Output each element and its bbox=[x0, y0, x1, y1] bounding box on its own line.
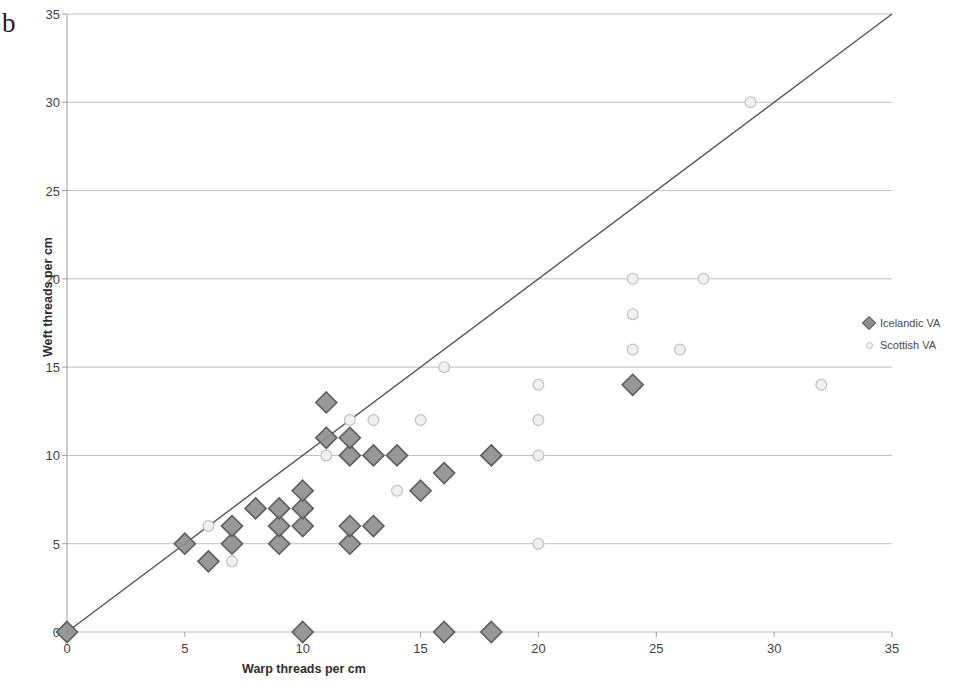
x-tick-label: 30 bbox=[754, 641, 794, 656]
data-point-diamond bbox=[387, 445, 408, 466]
data-point-diamond bbox=[174, 533, 195, 554]
x-axis-title: Warp threads per cm bbox=[0, 662, 958, 676]
x-tick-label: 20 bbox=[518, 641, 558, 656]
data-point-diamond bbox=[292, 480, 313, 501]
series-scottish bbox=[203, 97, 827, 567]
data-point-circle bbox=[533, 379, 544, 390]
data-point-diamond bbox=[363, 516, 384, 537]
data-point-circle bbox=[533, 415, 544, 426]
data-point-circle bbox=[392, 485, 403, 496]
data-point-circle bbox=[533, 450, 544, 461]
data-point-diamond bbox=[622, 374, 643, 395]
data-point-diamond bbox=[245, 498, 266, 519]
diamond-icon bbox=[862, 316, 876, 330]
data-point-circle bbox=[674, 344, 685, 355]
x-tick-label: 35 bbox=[872, 641, 912, 656]
chart-page: b 05101520253035 05101520253035 Weft thr… bbox=[0, 0, 958, 686]
data-point-diamond bbox=[363, 445, 384, 466]
legend-item-scottish: Scottish VA bbox=[862, 334, 958, 356]
data-point-circle bbox=[321, 450, 332, 461]
legend-label-icelandic: Icelandic VA bbox=[880, 318, 940, 329]
data-point-circle bbox=[627, 344, 638, 355]
data-point-diamond bbox=[222, 516, 243, 537]
x-tick-label: 5 bbox=[165, 641, 205, 656]
data-point-diamond bbox=[198, 551, 219, 572]
data-point-circle bbox=[698, 273, 709, 284]
data-point-circle bbox=[415, 415, 426, 426]
data-point-diamond bbox=[316, 392, 337, 413]
circle-icon bbox=[862, 338, 876, 352]
data-point-circle bbox=[368, 415, 379, 426]
chart-legend: Icelandic VA Scottish VA bbox=[862, 312, 958, 356]
plot-area bbox=[67, 14, 892, 632]
data-point-circle bbox=[816, 379, 827, 390]
data-point-diamond bbox=[269, 498, 290, 519]
data-point-diamond bbox=[434, 463, 455, 484]
data-point-diamond bbox=[316, 427, 337, 448]
data-point-circle bbox=[439, 362, 450, 373]
data-point-diamond bbox=[339, 427, 360, 448]
data-point-circle bbox=[203, 521, 214, 532]
data-point-diamond bbox=[410, 480, 431, 501]
y-axis-title: Weft threads per cm bbox=[41, 227, 55, 367]
data-point-diamond bbox=[339, 516, 360, 537]
legend-label-scottish: Scottish VA bbox=[880, 340, 936, 351]
x-axis-title-text: Warp threads per cm bbox=[242, 662, 366, 676]
legend-item-icelandic: Icelandic VA bbox=[862, 312, 958, 334]
data-point-circle bbox=[227, 556, 238, 567]
x-tick-label: 15 bbox=[401, 641, 441, 656]
data-point-circle bbox=[627, 309, 638, 320]
data-point-circle bbox=[627, 273, 638, 284]
x-tick-label: 25 bbox=[636, 641, 676, 656]
data-point-diamond bbox=[481, 445, 502, 466]
data-point-circle bbox=[344, 415, 355, 426]
scatter-plot-svg bbox=[67, 14, 892, 632]
data-point-circle bbox=[533, 538, 544, 549]
data-point-circle bbox=[745, 97, 756, 108]
